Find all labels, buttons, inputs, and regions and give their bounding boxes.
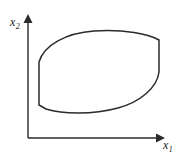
y-axis-label-subscript: 2 [16,22,20,31]
x-axis-label: x1 [163,139,172,151]
coordinate-figure [0,0,185,155]
x-axis-label-subscript: 1 [169,145,173,154]
y-axis-arrow-icon [24,14,33,23]
convex-region-shape [39,31,159,113]
y-axis-label-base: x [10,15,15,29]
y-axis-label: x2 [10,16,19,28]
figure-canvas: x2 x1 [0,0,185,155]
x-axis-label-base: x [163,138,168,152]
